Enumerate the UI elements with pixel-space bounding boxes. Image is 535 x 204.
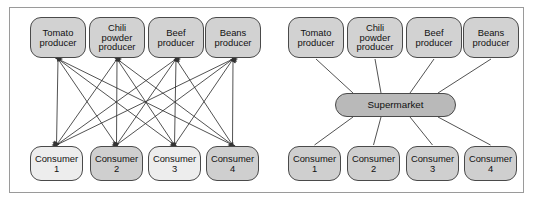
edge-producer2-supermarket (375, 59, 381, 93)
left-producer-tomato: Tomato producer (30, 17, 86, 58)
node-label: Beans producer (214, 28, 251, 47)
right-consumer-c4: Consumer 4 (464, 146, 517, 181)
node-label: Chili powder producer (98, 23, 135, 52)
node-label: Tomato producer (297, 28, 334, 47)
edge-supermarket-consumer4 (438, 117, 491, 145)
right-producer-tomato: Tomato producer (288, 17, 344, 58)
left-consumer-c3: Consumer 3 (148, 146, 201, 181)
left-consumer-c2: Consumer 2 (90, 146, 143, 181)
node-label: Consumer 4 (211, 154, 254, 173)
edge-supermarket-consumer2 (374, 117, 382, 145)
node-label: Beef producer (157, 28, 194, 47)
node-label: Tomato producer (39, 28, 76, 47)
right-hub-supermarket: Supermarket (335, 93, 456, 117)
node-label: Consumer 1 (293, 154, 336, 173)
node-label: Beans producer (472, 28, 509, 47)
left-consumer-c1: Consumer 1 (30, 146, 83, 181)
node-label: Chili powder producer (356, 23, 393, 52)
right-consumer-c2: Consumer 2 (347, 146, 400, 181)
node-label: Consumer 2 (95, 154, 138, 173)
right-consumer-c3: Consumer 3 (406, 146, 459, 181)
right-producer-chili: Chili powder producer (347, 17, 403, 58)
left-consumer-c4: Consumer 4 (206, 146, 259, 181)
edge-producer4-supermarket (438, 59, 491, 93)
left-producer-beans: Beans producer (205, 17, 261, 58)
left-producer-chili: Chili powder producer (89, 17, 145, 58)
node-label: Consumer 1 (35, 154, 78, 173)
edge-producer1-consumer1 (57, 59, 59, 145)
node-label: Consumer 4 (469, 154, 512, 173)
node-label: Consumer 3 (411, 154, 454, 173)
figure-canvas: Tomato producerChili powder producerBeef… (0, 0, 535, 204)
right-consumer-c1: Consumer 1 (288, 146, 341, 181)
right-producer-beef: Beef producer (406, 17, 462, 58)
node-label: Consumer 3 (153, 154, 196, 173)
node-label: Consumer 2 (352, 154, 395, 173)
node-label: Supermarket (367, 100, 423, 110)
edge-supermarket-consumer1 (315, 117, 354, 145)
left-panel-edges (57, 59, 234, 145)
left-producer-beef: Beef producer (148, 17, 204, 58)
edge-supermarket-consumer3 (410, 117, 433, 145)
edge-producer4-consumer4 (233, 59, 234, 145)
right-producer-beans: Beans producer (463, 17, 519, 58)
node-label: Beef producer (415, 28, 452, 47)
edge-producer3-supermarket (410, 59, 434, 93)
edge-producer1-supermarket (316, 59, 353, 93)
